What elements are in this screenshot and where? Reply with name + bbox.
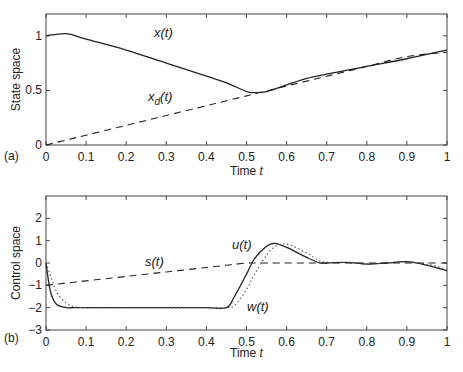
x-tick-label: 0.4 bbox=[198, 335, 215, 349]
x-tick-label: 0.8 bbox=[358, 335, 375, 349]
x-axis-label: Time t bbox=[230, 346, 264, 360]
y-tick-label: 0 bbox=[35, 138, 42, 152]
curve-annotation: s(t) bbox=[145, 254, 164, 269]
y-tick-label: 1 bbox=[35, 234, 42, 248]
series-line-x_dt bbox=[46, 52, 447, 145]
x-tick-label: 0.2 bbox=[118, 150, 135, 164]
curve-annotation: u(t) bbox=[232, 237, 252, 252]
y-tick-label: 1 bbox=[35, 29, 42, 43]
y-tick-label: −3 bbox=[28, 323, 42, 337]
x-tick-label: 0.4 bbox=[198, 150, 215, 164]
x-tick-label: 0.3 bbox=[158, 150, 175, 164]
y-tick-label: −1 bbox=[28, 278, 42, 292]
x-tick-label: 0.2 bbox=[118, 335, 135, 349]
x-tick-label: 0.6 bbox=[278, 335, 295, 349]
x-tick-label: 0.8 bbox=[358, 150, 375, 164]
x-tick-label: 0.1 bbox=[78, 150, 95, 164]
x-tick-label: 1 bbox=[444, 150, 451, 164]
y-axis-label: Control space bbox=[9, 226, 23, 300]
x-tick-label: 0.3 bbox=[158, 335, 175, 349]
x-tick-label: 0.7 bbox=[318, 150, 335, 164]
figure: 00.10.20.30.40.50.60.70.80.9100.51Time t… bbox=[0, 0, 463, 372]
plot-frame bbox=[46, 14, 447, 145]
curve-annotation: w(t) bbox=[247, 299, 269, 314]
x-tick-label: 0 bbox=[43, 150, 50, 164]
x-tick-label: 0.7 bbox=[318, 335, 335, 349]
x-axis-label: Time t bbox=[230, 164, 264, 178]
y-tick-label: 0.5 bbox=[25, 83, 42, 97]
panel-label: (a) bbox=[4, 149, 19, 163]
y-tick-label: 2 bbox=[35, 211, 42, 225]
chart-panel-b: 00.10.20.30.40.50.60.70.80.91−3−2−1012Ti… bbox=[4, 196, 451, 360]
panel-label: (b) bbox=[4, 331, 19, 345]
y-tick-label: −2 bbox=[28, 301, 42, 315]
chart-panel-a: 00.10.20.30.40.50.60.70.80.9100.51Time t… bbox=[4, 14, 451, 178]
y-axis-label: State space bbox=[9, 47, 23, 111]
x-tick-label: 0.5 bbox=[238, 150, 255, 164]
curve-annotation: xd(t) bbox=[147, 89, 172, 107]
x-tick-label: 0.1 bbox=[78, 335, 95, 349]
x-tick-label: 0 bbox=[43, 335, 50, 349]
x-tick-label: 1 bbox=[444, 335, 451, 349]
series-line-xt bbox=[46, 34, 447, 93]
x-tick-label: 0.9 bbox=[399, 150, 416, 164]
curve-annotation: x(t) bbox=[153, 25, 173, 40]
x-tick-label: 0.6 bbox=[278, 150, 295, 164]
y-tick-label: 0 bbox=[35, 256, 42, 270]
x-tick-label: 0.9 bbox=[399, 335, 416, 349]
